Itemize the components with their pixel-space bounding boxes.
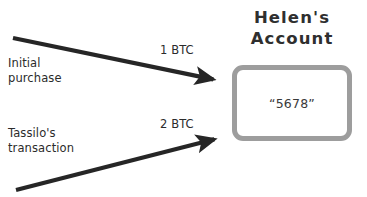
amount-label-initial-purchase: 1 BTC [160,43,194,57]
diagram-canvas: Initial purchase Tassilo's transaction 1… [0,0,367,197]
account-value: “5678” [269,96,315,111]
account-title-line-2: Account [232,28,352,49]
account-box: “5678” [232,65,352,141]
account-title: Helen's Account [232,7,352,49]
flow-label-tassilo-transaction: Tassilo's transaction [8,126,74,156]
account-title-line-1: Helen's [232,7,352,28]
amount-label-tassilo-transaction: 2 BTC [160,117,194,131]
flow-label-initial-purchase: Initial purchase [8,56,62,86]
